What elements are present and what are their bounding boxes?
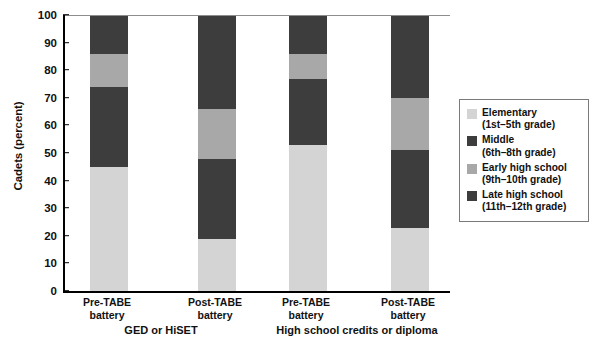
x-axis-tick-label-line1: Pre-TABE xyxy=(83,296,131,308)
bar-segment[interactable] xyxy=(391,98,429,150)
y-axis-tick-mark xyxy=(63,97,69,98)
stacked-bar[interactable] xyxy=(90,15,128,291)
y-axis-tick-label: 70 xyxy=(44,92,57,104)
stacked-bar[interactable] xyxy=(198,15,236,291)
y-axis-tick-mark xyxy=(63,152,69,153)
bar-segment[interactable] xyxy=(289,15,327,54)
legend-item[interactable]: Middle(6th–8th grade) xyxy=(467,134,582,158)
x-axis-group-label: GED or HiSET xyxy=(51,324,271,336)
legend-label-main: Late high school xyxy=(482,189,563,200)
bar-segment[interactable] xyxy=(90,167,128,291)
y-axis-tick-label: 30 xyxy=(44,202,57,214)
legend-label: Early high school(9th–10th grade) xyxy=(482,162,567,186)
y-axis-tick-label: 100 xyxy=(38,9,57,21)
bar-segment[interactable] xyxy=(289,145,327,291)
bar-segment[interactable] xyxy=(289,79,327,145)
legend-label: Middle(6th–8th grade) xyxy=(482,134,556,158)
bar-segment[interactable] xyxy=(391,228,429,291)
legend-label-main: Early high school xyxy=(482,162,567,173)
y-axis-tick-mark xyxy=(63,14,69,15)
y-axis-tick-label: 50 xyxy=(44,147,57,159)
stacked-bar[interactable] xyxy=(391,15,429,291)
bar-segment[interactable] xyxy=(198,109,236,159)
legend-label-sub: (6th–8th grade) xyxy=(482,147,556,159)
legend-label-main: Elementary xyxy=(482,107,537,118)
bar-segment[interactable] xyxy=(198,159,236,239)
legend: Elementary(1st–5th grade)Middle(6th–8th … xyxy=(459,99,589,222)
plot-area xyxy=(63,15,450,293)
x-axis-tick-label: Pre-TABEbattery xyxy=(251,296,361,321)
y-axis-tick-label: 80 xyxy=(44,64,57,76)
x-axis-tick-label: Post-TABEbattery xyxy=(353,296,463,321)
y-axis-tick-mark xyxy=(63,125,69,126)
x-axis-tick-label-line2: battery xyxy=(251,309,361,322)
bar-segment[interactable] xyxy=(198,239,236,291)
legend-swatch-icon xyxy=(467,136,477,146)
x-axis-group-label: High school credits or diploma xyxy=(247,324,467,336)
y-axis-tick-mark xyxy=(63,42,69,43)
bars-layer xyxy=(65,15,450,291)
legend-swatch-icon xyxy=(467,164,477,174)
y-axis-tick-label: 20 xyxy=(44,230,57,242)
y-axis-tick-label: 10 xyxy=(44,257,57,269)
y-axis-tick-mark xyxy=(63,235,69,236)
legend-label-main: Middle xyxy=(482,134,514,145)
y-axis-title: Cadets (percent) xyxy=(12,66,24,226)
x-axis-tick-label-line1: Post-TABE xyxy=(188,296,242,308)
y-axis-tick-mark xyxy=(63,69,69,70)
stacked-bar[interactable] xyxy=(289,15,327,291)
y-axis-tick-label: 60 xyxy=(44,119,57,131)
legend-swatch-icon xyxy=(467,191,477,201)
x-axis-tick-label-line1: Pre-TABE xyxy=(282,296,330,308)
legend-label-sub: (11th–12th grade) xyxy=(482,201,566,213)
x-axis-tick-label-line2: battery xyxy=(353,309,463,322)
bar-segment[interactable] xyxy=(90,54,128,87)
bar-segment[interactable] xyxy=(90,15,128,54)
x-axis-tick-label-line1: Post-TABE xyxy=(381,296,435,308)
bar-segment[interactable] xyxy=(90,87,128,167)
y-axis-tick-mark xyxy=(63,180,69,181)
legend-item[interactable]: Elementary(1st–5th grade) xyxy=(467,107,582,131)
bar-segment[interactable] xyxy=(198,15,236,109)
legend-label: Late high school(11th–12th grade) xyxy=(482,189,566,213)
legend-label-sub: (1st–5th grade) xyxy=(482,119,555,131)
legend-label: Elementary(1st–5th grade) xyxy=(482,107,555,131)
stacked-bar-chart-figure: Cadets (percent) 1009080706050403020100 … xyxy=(0,0,596,347)
y-axis-tick-label: 90 xyxy=(44,37,57,49)
x-axis-tick-label-line2: battery xyxy=(52,309,162,322)
y-axis-tick-mark xyxy=(63,290,69,291)
y-axis-tick-mark xyxy=(63,207,69,208)
legend-item[interactable]: Late high school(11th–12th grade) xyxy=(467,189,582,213)
legend-label-sub: (9th–10th grade) xyxy=(482,174,567,186)
x-axis-tick-label: Pre-TABEbattery xyxy=(52,296,162,321)
bar-segment[interactable] xyxy=(391,15,429,98)
y-axis-tick-mark xyxy=(63,263,69,264)
legend-item[interactable]: Early high school(9th–10th grade) xyxy=(467,162,582,186)
bar-segment[interactable] xyxy=(391,150,429,227)
bar-segment[interactable] xyxy=(289,54,327,79)
y-axis-tick-label: 40 xyxy=(44,175,57,187)
legend-swatch-icon xyxy=(467,109,477,119)
